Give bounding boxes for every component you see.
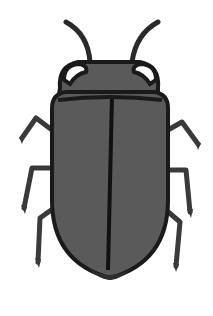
- beetle-illustration: [0, 0, 213, 316]
- antennae: [66, 22, 158, 62]
